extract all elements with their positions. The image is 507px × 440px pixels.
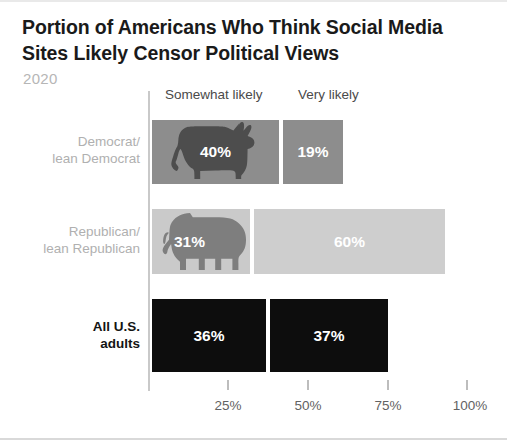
- row-label-all-us-adults-line-1: All U.S.: [93, 318, 140, 335]
- x-axis-label-25: 25%: [214, 398, 241, 413]
- x-axis-tick-100: [466, 380, 468, 390]
- bar-segment-democrat-very[interactable]: 19%: [283, 120, 343, 184]
- row-label-republican-line-1: Republican/: [43, 223, 140, 240]
- bar-value-democrat-very: 19%: [283, 143, 343, 161]
- bar-row-all-us-adults: All U.S. adults 36% 37%: [0, 299, 507, 372]
- row-label-republican-line-2: lean Republican: [43, 240, 140, 257]
- x-axis-label-100: 100%: [453, 398, 488, 413]
- row-label-republican: Republican/ lean Republican: [43, 223, 140, 257]
- row-label-democrat-line-1: Democrat/: [52, 133, 140, 150]
- bar-value-all-us-adults-very: 37%: [270, 327, 388, 345]
- bar-value-all-us-adults-somewhat: 36%: [152, 327, 266, 345]
- bar-row-republican: Republican/ lean Republican 31% 60%: [0, 209, 507, 274]
- bar-segment-republican-very[interactable]: 60%: [254, 209, 445, 274]
- bar-row-democrat: Democrat/ lean Democrat 40% 19%: [0, 120, 507, 184]
- row-label-all-us-adults-line-2: adults: [93, 335, 140, 352]
- bar-segment-democrat-somewhat[interactable]: 40%: [152, 120, 279, 184]
- legend-item-very-likely: Very likely: [298, 87, 359, 102]
- bars-republican: 31% 60%: [152, 209, 471, 274]
- legend-item-somewhat-likely: Somewhat likely: [165, 87, 263, 102]
- row-label-democrat-line-2: lean Democrat: [52, 150, 140, 167]
- chart-subtitle-year: 2020: [23, 70, 58, 87]
- page-title: Portion of Americans Who Think Social Me…: [22, 14, 492, 66]
- bar-value-republican-very: 60%: [254, 233, 445, 251]
- title-line-2: Sites Likely Censor Political Views: [22, 40, 492, 66]
- x-axis-label-50: 50%: [294, 398, 321, 413]
- x-axis-tick-25: [227, 380, 229, 390]
- chart-container: Portion of Americans Who Think Social Me…: [0, 0, 507, 440]
- bars-democrat: 40% 19%: [152, 120, 471, 184]
- x-axis: 25% 50% 75% 100%: [0, 380, 507, 440]
- row-label-all-us-adults: All U.S. adults: [93, 318, 140, 352]
- x-axis-tick-75: [387, 380, 389, 390]
- title-line-1: Portion of Americans Who Think Social Me…: [22, 14, 492, 40]
- bar-value-republican-somewhat: 31%: [152, 233, 250, 251]
- bar-value-democrat-somewhat: 40%: [152, 143, 279, 161]
- row-label-democrat: Democrat/ lean Democrat: [52, 133, 140, 167]
- x-axis-label-75: 75%: [374, 398, 401, 413]
- bar-segment-all-us-adults-very[interactable]: 37%: [270, 299, 388, 372]
- bars-all-us-adults: 36% 37%: [152, 299, 471, 372]
- x-axis-tick-50: [307, 380, 309, 390]
- bar-segment-all-us-adults-somewhat[interactable]: 36%: [152, 299, 266, 372]
- bar-segment-republican-somewhat[interactable]: 31%: [152, 209, 250, 274]
